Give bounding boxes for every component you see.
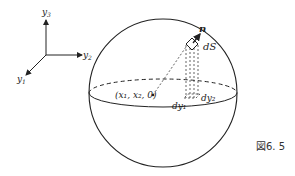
sphere-diagram: y3 y2 y1 n dS (x₁, x₂, 0) dy₁ dy₂ bbox=[0, 0, 295, 176]
ds-label: dS bbox=[203, 41, 216, 52]
projection-column bbox=[184, 45, 200, 99]
normal-label: n bbox=[199, 23, 206, 34]
normal-vector bbox=[193, 34, 200, 43]
dy1-label: dy₁ bbox=[172, 101, 186, 111]
y2-axis-label: y2 bbox=[82, 50, 92, 61]
figure-caption: 図6. 5 bbox=[256, 138, 285, 153]
dy2-label: dy₂ bbox=[201, 93, 216, 103]
y3-axis-label: y3 bbox=[41, 7, 51, 18]
equator-back bbox=[89, 79, 237, 93]
coordinate-axes bbox=[26, 20, 82, 75]
y1-axis-label: y1 bbox=[16, 74, 26, 85]
projection-line bbox=[153, 47, 186, 95]
point-label: (x₁, x₂, 0) bbox=[115, 90, 157, 100]
